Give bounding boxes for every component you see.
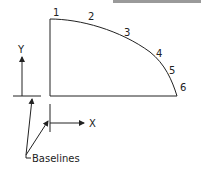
point-label-5: 5 [169, 65, 175, 76]
point-label-4: 4 [156, 48, 162, 59]
baseline-leaders [26, 99, 48, 158]
point-label-6: 6 [180, 82, 186, 93]
y-axis-label: Y [17, 44, 25, 55]
x-axis-label: X [89, 118, 96, 129]
baseline-diagram: 1 2 3 4 5 6 Y X Baselines [0, 0, 201, 182]
baselines-callout: Baselines [32, 153, 80, 164]
point-label-3: 3 [124, 27, 130, 38]
point-label-2: 2 [88, 11, 94, 22]
point-label-1: 1 [53, 7, 59, 18]
point-labels: 1 2 3 4 5 6 [53, 7, 186, 93]
